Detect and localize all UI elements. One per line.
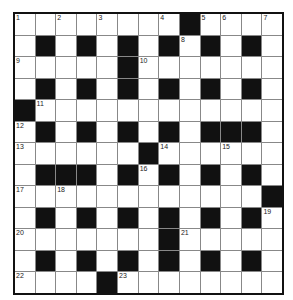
grid-cell[interactable] [242, 57, 262, 78]
grid-cell[interactable] [15, 36, 35, 57]
grid-cell[interactable] [221, 186, 241, 207]
grid-cell[interactable] [180, 208, 200, 229]
grid-cell[interactable] [180, 122, 200, 143]
grid-cell[interactable]: 12 [15, 122, 35, 143]
grid-cell[interactable] [56, 208, 76, 229]
grid-cell[interactable]: 9 [15, 57, 35, 78]
grid-cell[interactable] [262, 122, 282, 143]
grid-cell[interactable]: 23 [118, 272, 138, 293]
grid-cell[interactable] [180, 57, 200, 78]
grid-cell[interactable] [97, 57, 117, 78]
grid-cell[interactable] [262, 100, 282, 121]
grid-cell[interactable] [77, 143, 97, 164]
grid-cell[interactable]: 1 [15, 14, 35, 35]
grid-cell[interactable] [242, 100, 262, 121]
grid-cell[interactable]: 3 [97, 14, 117, 35]
grid-cell[interactable] [201, 186, 221, 207]
grid-cell[interactable] [201, 57, 221, 78]
grid-cell[interactable]: 16 [139, 165, 159, 186]
grid-cell[interactable] [97, 229, 117, 250]
grid-cell[interactable] [139, 79, 159, 100]
grid-cell[interactable] [36, 14, 56, 35]
grid-cell[interactable] [36, 229, 56, 250]
grid-cell[interactable] [97, 122, 117, 143]
grid-cell[interactable] [56, 79, 76, 100]
grid-cell[interactable] [97, 251, 117, 272]
grid-cell[interactable] [221, 165, 241, 186]
grid-cell[interactable]: 10 [139, 57, 159, 78]
grid-cell[interactable]: 6 [221, 14, 241, 35]
grid-cell[interactable]: 7 [262, 14, 282, 35]
grid-cell[interactable] [139, 100, 159, 121]
grid-cell[interactable] [201, 100, 221, 121]
grid-cell[interactable] [36, 272, 56, 293]
grid-cell[interactable] [221, 36, 241, 57]
grid-cell[interactable] [221, 251, 241, 272]
grid-cell[interactable]: 15 [221, 143, 241, 164]
grid-cell[interactable] [56, 100, 76, 121]
grid-cell[interactable] [36, 186, 56, 207]
grid-cell[interactable] [262, 229, 282, 250]
grid-cell[interactable] [262, 36, 282, 57]
grid-cell[interactable] [56, 251, 76, 272]
grid-cell[interactable] [15, 165, 35, 186]
grid-cell[interactable]: 13 [15, 143, 35, 164]
grid-cell[interactable] [221, 272, 241, 293]
grid-cell[interactable] [36, 143, 56, 164]
grid-cell[interactable] [56, 36, 76, 57]
grid-cell[interactable] [97, 186, 117, 207]
grid-cell[interactable] [97, 36, 117, 57]
grid-cell[interactable] [56, 272, 76, 293]
grid-cell[interactable] [118, 229, 138, 250]
grid-cell[interactable] [242, 143, 262, 164]
grid-cell[interactable] [159, 186, 179, 207]
grid-cell[interactable] [56, 57, 76, 78]
grid-cell[interactable] [139, 122, 159, 143]
grid-cell[interactable] [56, 122, 76, 143]
grid-cell[interactable] [36, 57, 56, 78]
grid-cell[interactable] [159, 100, 179, 121]
grid-cell[interactable]: 5 [201, 14, 221, 35]
grid-cell[interactable] [262, 57, 282, 78]
grid-cell[interactable] [262, 165, 282, 186]
grid-cell[interactable] [180, 251, 200, 272]
grid-cell[interactable]: 18 [56, 186, 76, 207]
grid-cell[interactable] [139, 229, 159, 250]
grid-cell[interactable] [242, 14, 262, 35]
grid-cell[interactable] [180, 165, 200, 186]
grid-cell[interactable] [139, 36, 159, 57]
grid-cell[interactable] [180, 143, 200, 164]
grid-cell[interactable] [139, 186, 159, 207]
grid-cell[interactable] [201, 272, 221, 293]
grid-cell[interactable] [56, 143, 76, 164]
grid-cell[interactable]: 11 [36, 100, 56, 121]
grid-cell[interactable] [77, 100, 97, 121]
grid-cell[interactable] [97, 208, 117, 229]
grid-cell[interactable]: 19 [262, 208, 282, 229]
grid-cell[interactable] [262, 79, 282, 100]
grid-cell[interactable]: 22 [15, 272, 35, 293]
grid-cell[interactable] [201, 143, 221, 164]
grid-cell[interactable] [221, 208, 241, 229]
grid-cell[interactable] [221, 100, 241, 121]
grid-cell[interactable] [221, 79, 241, 100]
grid-cell[interactable] [159, 57, 179, 78]
grid-cell[interactable] [118, 186, 138, 207]
grid-cell[interactable] [97, 79, 117, 100]
grid-cell[interactable] [139, 272, 159, 293]
grid-cell[interactable] [180, 79, 200, 100]
grid-cell[interactable] [77, 14, 97, 35]
grid-cell[interactable] [262, 143, 282, 164]
grid-cell[interactable] [221, 229, 241, 250]
grid-cell[interactable] [97, 143, 117, 164]
grid-cell[interactable] [262, 251, 282, 272]
grid-cell[interactable]: 20 [15, 229, 35, 250]
grid-cell[interactable] [221, 57, 241, 78]
grid-cell[interactable] [159, 272, 179, 293]
grid-cell[interactable] [97, 100, 117, 121]
grid-cell[interactable]: 17 [15, 186, 35, 207]
grid-cell[interactable] [242, 186, 262, 207]
grid-cell[interactable] [77, 57, 97, 78]
grid-cell[interactable] [118, 143, 138, 164]
grid-cell[interactable] [242, 272, 262, 293]
